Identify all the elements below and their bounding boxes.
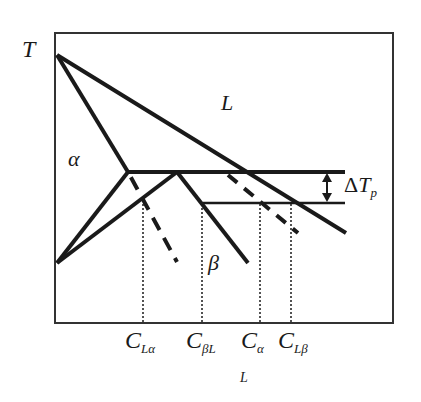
x-tick-CbetaL: CβL: [186, 327, 216, 357]
tick-main: C: [241, 327, 257, 353]
x-tick-CLalpha: CLα: [125, 327, 155, 357]
tick-sub: βL: [202, 341, 216, 356]
x-axis-label: L: [240, 370, 248, 386]
alpha-region-label: α: [68, 146, 80, 172]
tick-sub: Lβ: [294, 341, 308, 356]
tick-main: C: [278, 327, 294, 353]
delta-symbol: Δ: [344, 172, 358, 197]
delta-t-arrow-down-icon: [322, 193, 332, 202]
delta-t-arrow-up-icon: [322, 173, 332, 182]
x-tick-Calpha: Cα: [241, 327, 264, 357]
beta-region-label: β: [208, 250, 219, 276]
tick-sub: α: [257, 341, 264, 356]
tick-sub: Lα: [141, 341, 155, 356]
delta-t-subscript: p: [370, 185, 377, 200]
x-tick-CLbeta: CLβ: [278, 327, 308, 357]
delta-tp-label: ΔTp: [344, 172, 377, 201]
tick-main: C: [125, 327, 141, 353]
alpha-metastable-dashed-line: [128, 172, 177, 262]
liquid-region-label: L: [221, 90, 233, 116]
plot-frame: [55, 33, 393, 323]
tick-main: C: [186, 327, 202, 353]
delta-t-letter: T: [358, 172, 370, 197]
y-axis-label: T: [22, 36, 35, 63]
